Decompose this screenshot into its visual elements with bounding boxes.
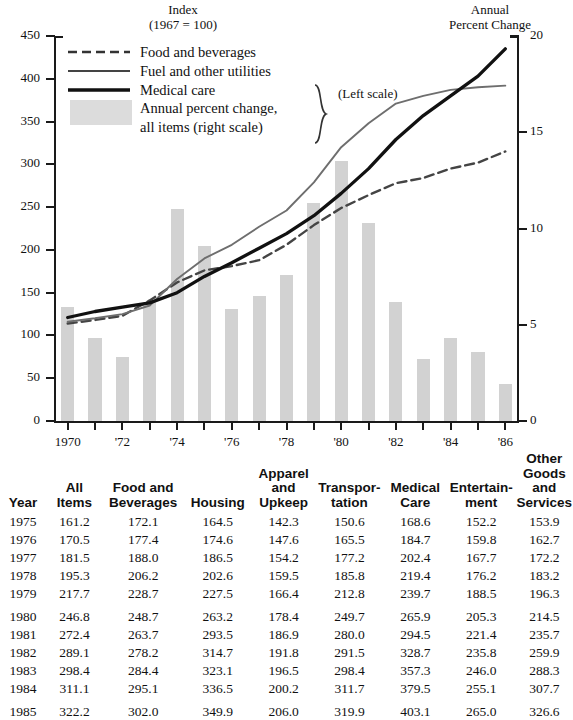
bar-annual-percent-change [143,302,156,421]
x-axis-tick [504,421,506,430]
right-axis-tick [518,131,527,133]
bar-annual-percent-change [280,275,293,421]
left-axis-line [54,36,56,423]
right-axis-tick [510,35,519,37]
left-axis-tick-label: 150 [0,284,40,300]
left-axis-tick-label: 450 [0,27,40,43]
right-axis-tick-label: 15 [530,123,570,139]
table-header-row: Year AllItems Food andBeverages HousingA… [0,452,573,513]
table-header-line: Medical [384,481,447,496]
table-header-line: Entertain- [447,481,516,496]
table-cell: 172.1 [103,513,183,531]
table-cell: 172.2 [516,549,573,567]
table-cell: 154.2 [252,549,315,567]
x-axis-tick [258,421,260,430]
table-cell: 166.4 [252,585,315,603]
x-axis-tick [395,421,397,430]
table-header-line: Apparel [252,467,315,482]
table-cell: 159.8 [447,531,516,549]
bar-annual-percent-change [444,338,457,421]
legend-label-annual-change-1: Annual percent change, [140,99,277,118]
table-header-line: Items [46,496,103,511]
table-header-cell: MedicalCare [384,452,447,513]
cpi-data-table: Year AllItems Food andBeverages HousingA… [0,452,573,691]
table-cell: 168.6 [384,513,447,531]
bar-annual-percent-change [335,161,348,421]
x-axis-tick [203,421,205,430]
table-cell: 311.7 [315,680,384,698]
table-header-line: Transpor- [315,481,384,496]
table-header-line [103,467,183,482]
table-row: 1985322.2302.0349.9206.0319.9403.1265.03… [0,698,573,720]
table-cell: 248.7 [103,603,183,626]
table-cell: 153.9 [516,513,573,531]
table-cell: 307.7 [516,680,573,698]
table-row: 1977181.5188.0186.5154.2177.2202.4167.71… [0,549,573,567]
table-head: Year AllItems Food andBeverages HousingA… [0,452,573,513]
legend-label-fuel: Fuel and other utilities [140,62,271,81]
table-header-line: tation [315,496,384,511]
right-axis-line [517,36,519,423]
table-cell: 212.8 [315,585,384,603]
table-cell: 200.2 [252,680,315,698]
table-cell: 336.5 [183,680,252,698]
table-cell: 219.4 [384,567,447,585]
table-cell: 202.6 [183,567,252,585]
table-cell: 259.9 [516,644,573,662]
x-axis-tick-label: '74 [155,434,199,450]
dashed-line-icon [66,43,132,61]
table-cell: 272.4 [46,626,103,644]
table-cell: 202.4 [384,549,447,567]
x-axis-tick-label: '72 [100,434,144,450]
x-axis-tick-label: '76 [210,434,254,450]
left-axis-title: Index (1967 = 100) [118,2,248,32]
table-cell: 249.7 [315,603,384,626]
table-cell: 322.2 [46,698,103,720]
x-axis-tick [313,421,315,430]
table-row: 1979217.7228.7227.5166.4212.8239.7188.51… [0,585,573,603]
table-header-line: and [252,481,315,496]
thick-line-icon [66,81,132,99]
right-axis-tick-label: 0 [530,412,570,428]
table-header-line [183,467,252,482]
table-cell: 403.1 [384,698,447,720]
table-cell: 164.5 [183,513,252,531]
table-cell: 1984 [0,680,46,698]
x-axis-tick-label: '86 [483,434,527,450]
table-cell: 311.1 [46,680,103,698]
left-axis-tick-label: 0 [0,412,40,428]
table-cell: 205.3 [447,603,516,626]
table-cell: 150.6 [315,513,384,531]
table-cell: 191.8 [252,644,315,662]
chart-legend: Food and beverages Fuel and other utilit… [66,43,321,135]
table-header-line: Food and [103,481,183,496]
left-axis-tick [46,377,55,379]
table-header-cell: AllItems [46,452,103,513]
table-cell: 227.5 [183,585,252,603]
x-axis-tick [340,421,342,430]
table-cell: 186.9 [252,626,315,644]
left-axis-tick-label: 350 [0,113,40,129]
table-cell: 323.1 [183,662,252,680]
x-axis-tick-label: '84 [429,434,473,450]
table-cell: 1979 [0,585,46,603]
table-header-cell: Transpor-tation [315,452,384,513]
left-axis-tick-label: 100 [0,326,40,342]
table-cell: 188.5 [447,585,516,603]
bar-annual-percent-change [88,338,101,421]
table-header-line [447,467,516,482]
table-cell: 177.2 [315,549,384,567]
left-axis-tick [46,206,55,208]
right-axis-tick-label: 5 [530,316,570,332]
x-axis-tick [450,421,452,430]
x-axis-tick [67,421,69,430]
table-row: 1982289.1278.2314.7191.8291.5328.7235.82… [0,644,573,662]
table-cell: 1981 [0,626,46,644]
left-axis-tick-label: 50 [0,369,40,385]
table-cell: 221.4 [447,626,516,644]
x-axis-tick [121,421,123,430]
legend-label-annual-change-2: all items (right scale) [140,118,263,137]
table-cell: 174.6 [183,531,252,549]
x-axis-tick [231,421,233,430]
table-cell: 302.0 [103,698,183,720]
